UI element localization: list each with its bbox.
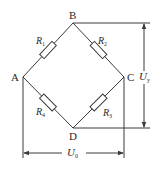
resistor-label-r4: R4 — [36, 107, 45, 118]
resistor-subscript: 3 — [109, 113, 112, 119]
voltage-symbol: U — [67, 146, 75, 158]
resistor-label-r2: R2 — [98, 36, 107, 47]
voltage-symbol: U — [139, 70, 147, 82]
arm-a-b — [23, 23, 73, 77]
arm-b-c — [73, 23, 124, 77]
node-label-a: A — [11, 72, 19, 83]
resistor-subscript: 2 — [104, 41, 107, 47]
bridge-circuit-diagram — [0, 0, 161, 170]
resistor-subscript: 1 — [42, 41, 45, 47]
node-label-c: C — [127, 72, 134, 83]
input-voltage-label: U0 — [66, 147, 79, 159]
arm-c-d — [73, 77, 124, 128]
resistor-subscript: 4 — [42, 112, 45, 118]
arm-a-d — [23, 77, 73, 128]
voltage-subscript: y — [147, 77, 150, 83]
node-label-b: B — [69, 10, 76, 21]
voltage-subscript: 0 — [75, 153, 78, 159]
resistor-label-r3: R3 — [103, 108, 112, 119]
output-voltage-label: Uy — [138, 71, 151, 83]
node-label-d: D — [69, 131, 77, 142]
resistor-label-r1: R1 — [36, 36, 45, 47]
